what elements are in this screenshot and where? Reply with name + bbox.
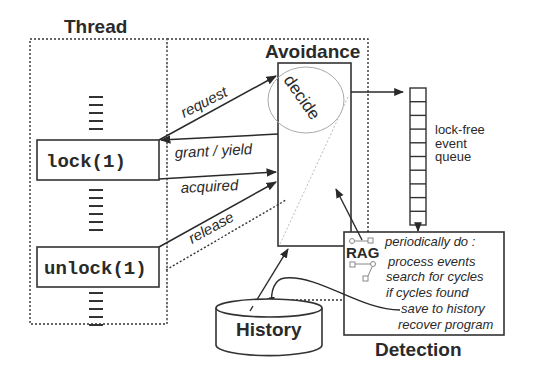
- detection-line-4: if cycles found: [386, 285, 469, 300]
- detection-line-1: periodically do :: [384, 234, 476, 249]
- queue-label-line1: lock-free: [435, 122, 485, 137]
- detection-line-5: save to history: [401, 301, 486, 316]
- detection-title: Detection: [375, 339, 462, 360]
- detection-box: RAG periodically do : process events sea…: [344, 232, 504, 335]
- lock-call-label: lock(1): [46, 151, 126, 173]
- deadlock-immunity-diagram: Thread Avoidance decide lock(1) unlock(1…: [0, 0, 535, 379]
- acquired-label: acquired: [180, 176, 239, 196]
- avoidance-box: decide: [268, 63, 351, 246]
- detection-line-2: process events: [387, 254, 476, 269]
- detection-line-3: search for cycles: [386, 269, 484, 284]
- release-label: release: [185, 208, 236, 247]
- lock-call-box: lock(1): [37, 140, 159, 180]
- event-queue: [410, 88, 426, 225]
- queue-label-line3: queue: [435, 149, 471, 164]
- detection-line-6: recover program: [398, 317, 494, 332]
- history-label: History: [236, 319, 302, 340]
- avoidance-title: Avoidance: [265, 41, 360, 62]
- grant-yield-arrow: grant / yield: [161, 134, 278, 161]
- unlock-call-label: unlock(1): [44, 258, 147, 280]
- thread-tick-marks: [89, 97, 103, 325]
- request-arrow: request: [159, 76, 276, 140]
- rag-label: RAG: [346, 244, 379, 261]
- thread-title: Thread: [64, 16, 127, 37]
- history-database: History: [216, 299, 322, 356]
- unlock-call-box: unlock(1): [37, 247, 159, 287]
- grant-yield-label: grant / yield: [174, 140, 253, 161]
- decide-label: decide: [280, 71, 324, 123]
